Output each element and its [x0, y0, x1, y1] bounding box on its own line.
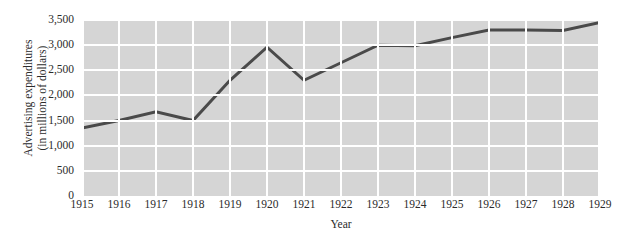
gridline-vertical	[340, 20, 342, 196]
y-axis-tick-label: 1,000	[0, 140, 74, 152]
x-axis-tick-label: 1919	[219, 199, 242, 211]
y-axis-tick-labels: 05001,0001,5002,0002,5003,0003,500	[0, 0, 74, 250]
x-axis-tick-label: 1921	[293, 199, 316, 211]
gridline-vertical	[414, 20, 416, 196]
gridline-vertical	[303, 20, 305, 196]
gridline-vertical	[598, 20, 600, 196]
gridline-vertical	[192, 20, 194, 196]
x-axis-tick-labels: 1915191619171918191919201921192219231924…	[82, 199, 600, 217]
gridline-vertical	[451, 20, 453, 196]
gridline-vertical	[82, 20, 84, 196]
gridline-vertical	[488, 20, 490, 196]
x-axis-title: Year	[82, 219, 600, 231]
x-axis-tick-label: 1924	[404, 199, 427, 211]
y-axis-tick-label: 0	[0, 190, 74, 202]
x-axis-tick-label: 1915	[71, 199, 94, 211]
plot-area	[82, 20, 600, 196]
y-axis-tick-label: 2,500	[0, 65, 74, 77]
y-axis-tick-label: 500	[0, 165, 74, 177]
gridline-vertical	[229, 20, 231, 196]
gridline-vertical	[266, 20, 268, 196]
gridline-vertical	[155, 20, 157, 196]
y-axis-tick-label: 1,500	[0, 115, 74, 127]
x-axis-tick-label: 1916	[108, 199, 131, 211]
line-chart: Advertising expenditures (in millions of…	[0, 0, 620, 250]
y-axis-tick-label: 2,000	[0, 90, 74, 102]
gridline-vertical	[525, 20, 527, 196]
x-axis-tick-label: 1928	[552, 199, 575, 211]
gridline-vertical	[118, 20, 120, 196]
x-axis-tick-label: 1922	[330, 199, 353, 211]
y-axis-tick-label: 3,500	[0, 14, 74, 26]
x-axis-tick-label: 1917	[145, 199, 168, 211]
x-axis-tick-label: 1927	[515, 199, 538, 211]
x-axis-tick-label: 1918	[182, 199, 205, 211]
x-axis-tick-label: 1920	[256, 199, 279, 211]
gridline-vertical	[562, 20, 564, 196]
x-axis-tick-label: 1925	[441, 199, 464, 211]
gridline-vertical	[377, 20, 379, 196]
x-axis-tick-label: 1926	[478, 199, 501, 211]
x-axis-tick-label: 1929	[589, 199, 612, 211]
x-axis-tick-label: 1923	[367, 199, 390, 211]
y-axis-tick-label: 3,000	[0, 39, 74, 51]
